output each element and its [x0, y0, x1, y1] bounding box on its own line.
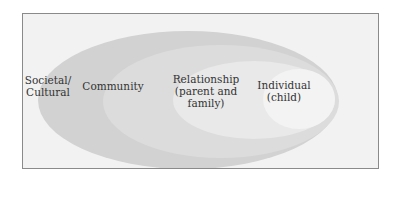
individual-label: Individual (child) — [252, 79, 316, 103]
societal-cultural-label: Societal/ Cultural — [22, 74, 74, 98]
relationship-label: Relationship (parent and family) — [168, 73, 244, 109]
community-label: Community — [80, 80, 146, 92]
